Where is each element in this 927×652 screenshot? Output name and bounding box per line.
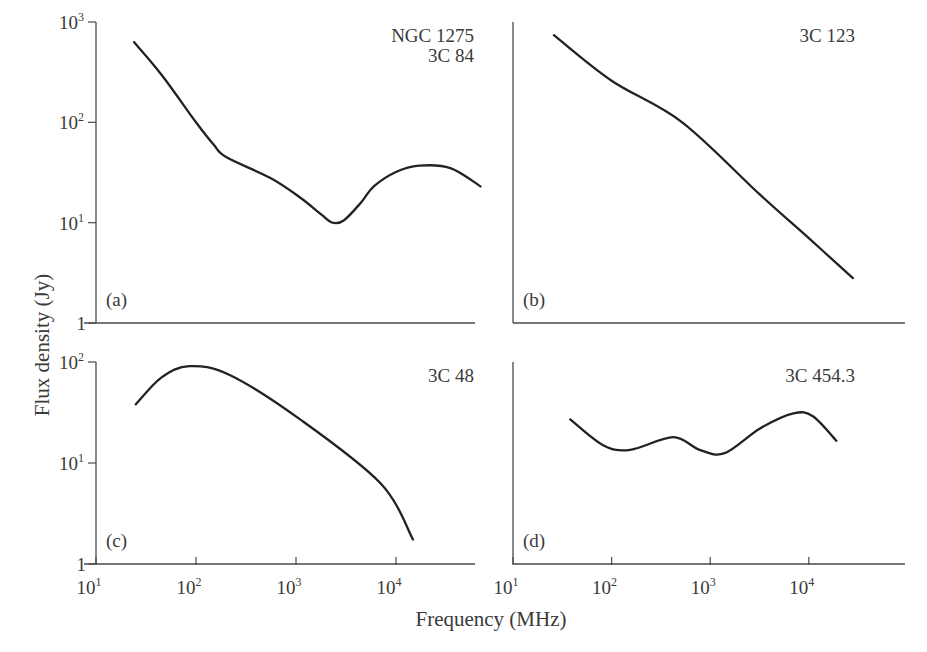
y-tick-label-a: 103 [59,10,84,33]
panel-label-c: (c) [106,530,127,552]
panel-label-b: (b) [523,289,545,311]
x-tick-label-c: 101 [77,575,102,598]
source-label-d: 3C 454.3 [785,365,855,386]
y-tick-label-c: 1 [77,554,87,575]
source-label-b: 3C 123 [800,25,855,46]
panel-label-d: (d) [523,530,545,552]
y-tick-label-c: 102 [59,350,84,373]
panel-label-a: (a) [106,289,127,311]
y-tick-label-a: 1 [77,313,87,334]
panel-c: 1101102101102103104(c)3C 48 [59,350,475,598]
x-axis-title: Frequency (MHz) [415,607,566,631]
source-label-a: NGC 1275 [391,25,474,46]
panel-b: (b)3C 123 [513,22,905,323]
x-tick-label-d: 102 [592,575,617,598]
source-label-a: 3C 84 [428,45,474,66]
panel-d: 101102103104(d)3C 454.3 [494,362,906,598]
y-tick-label-a: 101 [59,211,84,234]
spectrum-curve-c [136,366,413,539]
panel-a: 1101102103(a)NGC 12753C 84 [59,10,481,334]
spectrum-curve-b [554,35,853,278]
x-tick-label-c: 104 [377,575,402,598]
spectra-figure: 1101102103(a)NGC 12753C 84(b)3C 12311011… [0,0,927,652]
y-tick-label-a: 102 [59,110,84,133]
y-tick-label-c: 101 [59,451,84,474]
x-tick-label-c: 102 [177,575,202,598]
spectrum-curve-d [570,412,836,454]
x-tick-label-d: 104 [789,575,814,598]
source-label-c: 3C 48 [428,365,474,386]
spectrum-curve-a [134,42,481,223]
x-tick-label-d: 103 [691,575,716,598]
x-tick-label-c: 103 [277,575,302,598]
x-tick-label-d: 101 [494,575,519,598]
y-axis-title: Flux density (Jy) [30,274,54,416]
